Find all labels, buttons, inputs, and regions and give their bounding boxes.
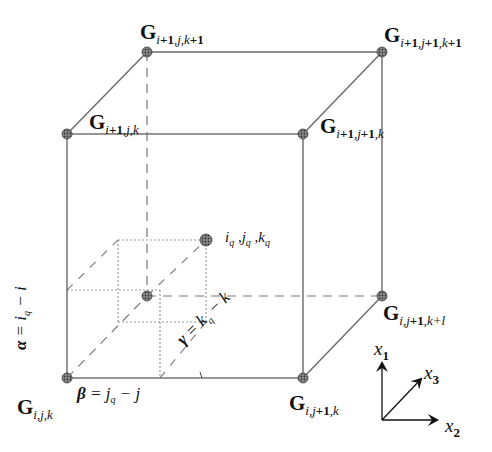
label-alpha: α = iq − i [12,286,32,350]
label-axis-x2: x2 [445,416,460,439]
axis-x3-arrow [382,379,421,420]
node-g-i-j1-k [298,373,308,383]
node-g-i1-j-k1 [142,47,152,57]
node-query-point [200,234,212,246]
label-g-i1-j-k1: Gi+1,j,k+1 [140,22,204,43]
node-g-i1-j-k [62,129,72,139]
query-diagonals [67,240,206,378]
node-g-i1-j1-k1 [377,47,387,57]
cube-diagram [0,0,492,452]
node-g-i-j-k [62,373,72,383]
query-subcell-lines [67,240,206,378]
label-g-i-j-k: Gi,j,k [17,397,53,418]
bottom-right-diagonal [303,296,382,378]
label-axis-x3: x3 [424,363,439,386]
node-hidden-back-bottom-left [142,291,152,301]
label-g-i1-j1-k1: Gi+1,j+1,k+1 [384,25,462,46]
node-g-i-j1-k1 [377,291,387,301]
label-axis-x1: x1 [374,339,389,362]
label-g-i-j1-k1: Gi,j+1,k+l [383,303,445,324]
label-beta: β = jq − j [77,385,140,405]
label-query-point: iq ,jq ,kq [225,230,270,248]
hidden-edge-diagonal [67,296,147,378]
node-g-i1-j1-k [298,129,308,139]
label-g-i1-j1-k: Gi+1,j+1,k [320,116,384,137]
label-g-i1-j-k: Gi+1,j,k [89,112,139,133]
gamma-tick [200,372,202,378]
label-g-i-j1-k: Gi,j+1,k [289,393,339,414]
